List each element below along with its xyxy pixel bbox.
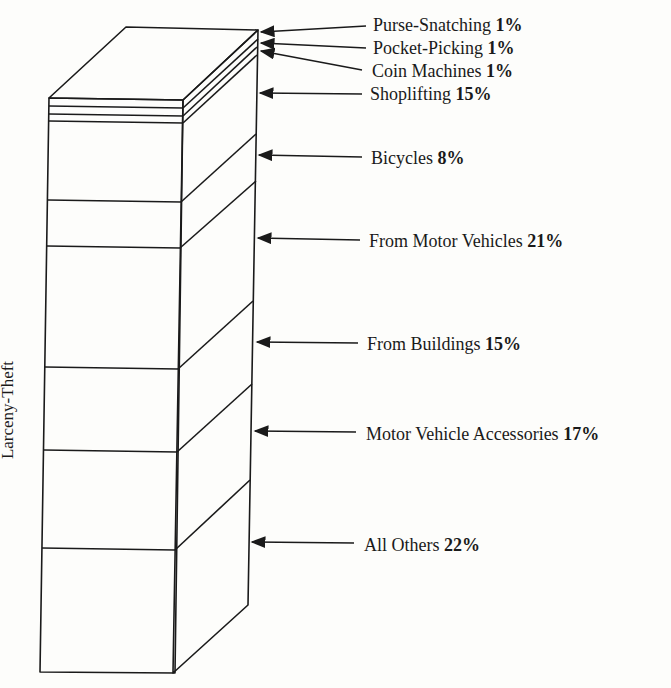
arrow-from-buildings	[257, 342, 358, 343]
label-pocket-picking: Pocket-Picking 1%	[373, 38, 515, 58]
arrow-purse-snatching	[261, 26, 366, 32]
label-motor-vehicle-accessories: Motor Vehicle Accessories 17%	[366, 424, 599, 444]
arrow-pocket-picking	[261, 43, 366, 48]
label-all-others: All Others 22%	[364, 535, 480, 555]
column-side-face	[173, 30, 258, 673]
label-from-motor-vehicles: From Motor Vehicles 21%	[369, 231, 563, 251]
label-purse-snatching: Purse-Snatching 1%	[373, 15, 522, 35]
label-coin-machines: Coin Machines 1%	[372, 61, 513, 81]
label-from-buildings: From Buildings 15%	[367, 334, 521, 354]
column-front-face	[40, 98, 183, 673]
column-top-face	[49, 27, 258, 100]
arrow-from-motor-vehicles	[258, 238, 360, 240]
label-shoplifting: Shoplifting 15%	[370, 84, 492, 104]
stacked-column-chart	[0, 0, 671, 688]
arrow-bicycles	[259, 155, 362, 157]
arrow-motor-vehicle-accessories	[255, 431, 356, 432]
arrow-shoplifting	[260, 93, 362, 94]
axis-label-larceny-theft: Larceny-Theft	[0, 361, 18, 459]
label-bicycles: Bicycles 8%	[371, 148, 464, 168]
arrow-all-others	[252, 542, 354, 543]
arrow-coin-machines	[261, 51, 362, 70]
